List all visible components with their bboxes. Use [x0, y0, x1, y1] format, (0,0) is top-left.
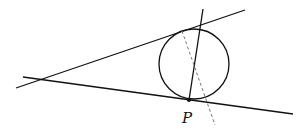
lower-tangent-line — [23, 77, 293, 114]
geometry-figure: P — [0, 0, 307, 132]
chord-line — [189, 9, 203, 100]
point-p-dot — [187, 98, 191, 102]
diagram-canvas: P — [0, 0, 307, 132]
upper-tangent-line — [16, 10, 245, 88]
point-p-label: P — [181, 109, 193, 127]
